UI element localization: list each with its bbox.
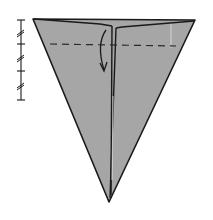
origami-diagram <box>0 0 213 220</box>
measurement-scale <box>17 20 25 100</box>
